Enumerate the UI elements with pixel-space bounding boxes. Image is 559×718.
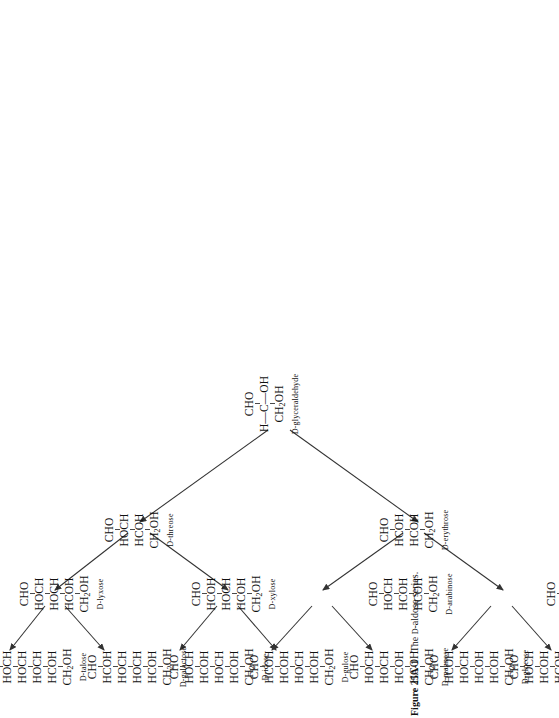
figure-canvas: CHO H—C—OH CH2OH D-glyceraldehyde CHO HO… <box>0 0 559 718</box>
fischer-chain: CHO HOCH HOCH HCOH HCOH CH2OH <box>348 628 438 706</box>
chain-row: HOCH <box>382 578 397 611</box>
molecule-d-xylose[interactable]: CHO HCOH HOCH HCOH CH2OH D-xylose <box>190 556 277 632</box>
fischer-chain: CHO HCOH HOCH HCOH HCOH CH2OH <box>428 628 518 706</box>
chain-row: CH2OH <box>78 575 93 612</box>
chain-row: CH2OH <box>323 648 338 685</box>
chain-row: CHO <box>168 655 183 680</box>
chain-row: HCOH <box>538 651 553 684</box>
chain-row: HCOH <box>553 651 559 684</box>
molecule-label: D-xylose <box>268 556 277 632</box>
chain-row: CHO <box>18 582 33 607</box>
chain-text: OH <box>273 385 285 402</box>
chain-row: CHO <box>86 655 101 680</box>
chain-row: HCOH <box>393 651 408 684</box>
chain-row: HOCH <box>363 651 378 684</box>
chain-row: HOCH <box>33 578 48 611</box>
chain-row: CHO <box>248 655 263 680</box>
chain-text: CH <box>61 669 73 685</box>
molecule-d-threose[interactable]: CHO HOCH HCOH CH2OH D-threose <box>103 492 175 568</box>
chain-text: CH <box>78 596 90 612</box>
chain-text: CH <box>148 532 160 548</box>
chain-row: HOCH <box>213 651 228 684</box>
subscript: 2 <box>153 528 162 532</box>
figure-caption-text: The D-aldose series. <box>409 572 420 652</box>
chain-row: HOCH <box>131 651 146 684</box>
chain-row: CHO <box>103 518 118 543</box>
rotated-page-content: CHO H—C—OH CH2OH D-glyceraldehyde CHO HO… <box>0 0 559 718</box>
subscript: 2 <box>328 665 337 669</box>
chain-row: CHO <box>190 582 205 607</box>
molecule-d-lyxose[interactable]: CHO HOCH HOCH HCOH CH2OH D-lyxose <box>18 556 105 632</box>
chain-row: CHO <box>428 655 443 680</box>
fischer-chain: CHO HCOH HCOH HCOH CH2OH <box>545 556 559 632</box>
subscript: 2 <box>66 665 75 669</box>
fischer-chain: CHO HCOH HCOH HOCH HCOH CH2OH <box>248 628 338 706</box>
subscript: 2 <box>278 402 287 406</box>
fischer-chain: CHO HOCH HCOH HCOH HCOH CH2OH <box>508 628 559 706</box>
chain-row: HCOH <box>393 514 408 547</box>
figure-number: Figure 25A-1 <box>409 660 420 716</box>
fischer-chain: CHO HOCH HCOH HOCH HCOH CH2OH <box>168 628 258 706</box>
chain-row: HOCH <box>523 651 538 684</box>
molecule-d-gulose[interactable]: CHO HCOH HCOH HOCH HCOH CH2OH D-gulose <box>248 628 350 706</box>
fischer-chain: CHO HOCH HOCH HCOH CH2OH <box>18 556 93 632</box>
chain-row: HOCH <box>458 651 473 684</box>
chain-row: HCOH <box>443 651 458 684</box>
chain-text: OH <box>148 511 160 528</box>
molecule-d-talose[interactable]: CHO HOCH HOCH HOCH HCOH CH2OH D-talose <box>0 628 88 706</box>
chain-row: CHO <box>367 582 382 607</box>
chain-row: HCOH <box>263 651 278 684</box>
fischer-chain: CHO HCOH HOCH HOCH HCOH CH2OH <box>86 628 176 706</box>
chain-row: HOCH <box>116 651 131 684</box>
chain-text: OH <box>423 511 435 528</box>
chain-row: CHO <box>378 518 393 543</box>
chain-row: HOCH <box>378 651 393 684</box>
chain-row: CH2OH <box>427 575 442 612</box>
molecule-d-glyceraldehyde[interactable]: CHO H—C—OH CH2OH D-glyceraldehyde <box>243 364 300 444</box>
molecule-label: D-threose <box>166 492 175 568</box>
molecule-label: D-lyxose <box>96 556 105 632</box>
chain-text: CH <box>423 532 435 548</box>
molecule-d-altrose[interactable]: CHO HOCH HCOH HCOH HCOH CH2OH D-altrose <box>508 628 559 706</box>
chain-row: CHO <box>508 655 523 680</box>
chain-row: HCOH <box>205 578 220 611</box>
chain-row: HOCH <box>220 578 235 611</box>
chain-text: OH <box>427 575 439 592</box>
fischer-chain: CHO HOCH HCOH CH2OH <box>103 492 163 568</box>
chain-row: HOCH <box>31 651 46 684</box>
chain-row: CHO <box>348 655 363 680</box>
subscript: 2 <box>432 592 441 596</box>
chain-row: HOCH <box>118 514 133 547</box>
chain-row: CH2OH <box>273 385 288 422</box>
chain-text: OH <box>250 575 262 592</box>
subscript: 2 <box>83 592 92 596</box>
chain-row: HCOH <box>278 651 293 684</box>
chain-row: CH2OH <box>148 511 163 548</box>
chain-row: HCOH <box>198 651 213 684</box>
chain-text: CH <box>250 596 262 612</box>
fischer-chain: CHO H—C—OH CH2OH <box>243 364 288 444</box>
chain-text: CH <box>273 406 285 422</box>
chain-text: CH <box>427 596 439 612</box>
chain-row: CH2OH <box>250 575 265 612</box>
chain-row: CHO <box>545 582 559 607</box>
molecule-label: D-arabinose <box>445 556 454 632</box>
molecule-d-ribose[interactable]: CHO HCOH HCOH HCOH CH2OH D-ribose <box>545 556 559 632</box>
molecule-label: D-glyceraldehyde <box>291 364 300 444</box>
chain-row: HOCH <box>183 651 198 684</box>
figure-caption: Figure 25A-1 The D-aldose series. <box>409 572 420 716</box>
fischer-chain: CHO HCOH HOCH HCOH CH2OH <box>190 556 265 632</box>
chain-row: HOCH <box>1 651 16 684</box>
subscript: 2 <box>255 592 264 596</box>
fischer-chain: CHO HOCH HOCH HOCH HCOH CH2OH <box>0 628 76 706</box>
chain-text: OH <box>61 648 73 665</box>
chain-text: OH <box>323 648 335 665</box>
fischer-chain: CHO HOCH HCOH HCOH CH2OH <box>367 556 442 632</box>
chain-row: HCOH <box>101 651 116 684</box>
chain-text: OH <box>78 575 90 592</box>
chain-row: HOCH <box>16 651 31 684</box>
subscript: 2 <box>428 528 437 532</box>
chain-row: CH2OH <box>423 511 438 548</box>
chain-row: HOCH <box>48 578 63 611</box>
chain-row: CHO <box>243 392 258 417</box>
